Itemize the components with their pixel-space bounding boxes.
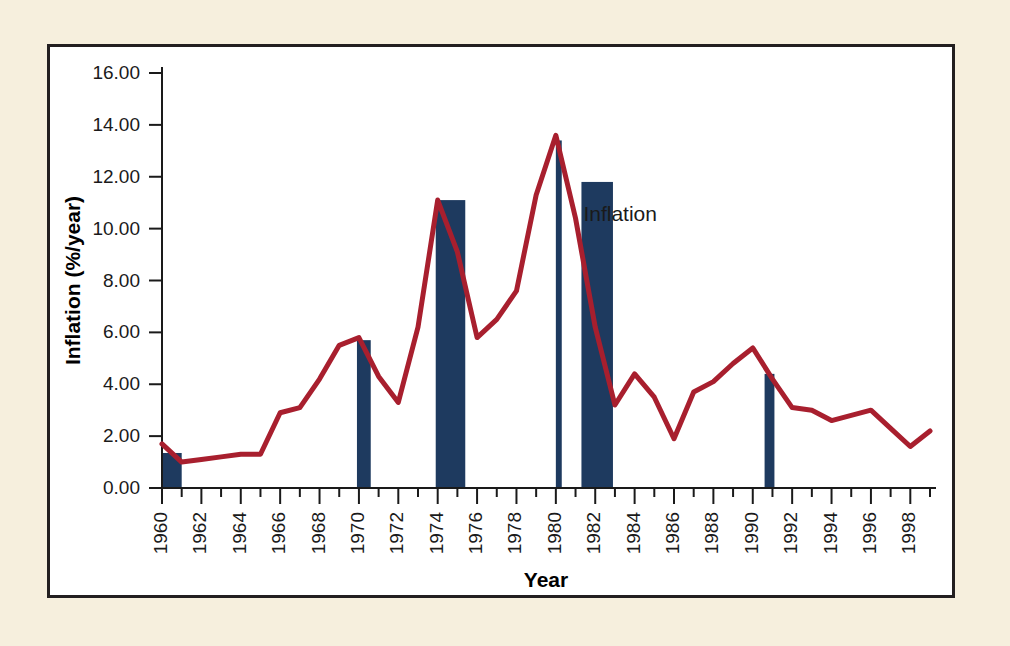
inflation-chart-svg: 0.002.004.006.008.0010.0012.0014.0016.00… <box>50 47 958 601</box>
chart-page: 0.002.004.006.008.0010.0012.0014.0016.00… <box>0 0 1010 646</box>
y-tick-label: 2.00 <box>103 425 140 446</box>
x-tick-label: 1996 <box>859 512 880 554</box>
y-tick-label: 16.00 <box>92 62 140 83</box>
x-axis-title: Year <box>524 568 568 591</box>
y-tick-label: 10.00 <box>92 218 140 239</box>
x-tick-label: 1966 <box>268 512 289 554</box>
recession-bar <box>436 200 466 488</box>
x-tick-label: 1968 <box>308 512 329 554</box>
x-tick-label: 1986 <box>662 512 683 554</box>
x-tick-label: 1980 <box>544 512 565 554</box>
y-tick-label: 4.00 <box>103 373 140 394</box>
inflation-series-label: Inflation <box>583 202 657 225</box>
x-tick-label: 1974 <box>426 512 447 555</box>
x-tick-label: 1990 <box>741 512 762 554</box>
x-tick-label: 1964 <box>229 512 250 555</box>
chart-panel: 0.002.004.006.008.0010.0012.0014.0016.00… <box>47 44 955 598</box>
y-tick-label: 8.00 <box>103 270 140 291</box>
x-tick-label: 1976 <box>465 512 486 554</box>
inflation-line <box>162 135 930 462</box>
x-tick-label: 1982 <box>583 512 604 554</box>
y-tick-label: 12.00 <box>92 166 140 187</box>
y-tick-label: 14.00 <box>92 114 140 135</box>
y-tick-label: 6.00 <box>103 321 140 342</box>
x-tick-label: 1978 <box>504 512 525 554</box>
x-tick-label: 1962 <box>189 512 210 554</box>
recession-bar <box>765 374 775 488</box>
x-tick-label: 1960 <box>150 512 171 554</box>
x-tick-label: 1972 <box>386 512 407 554</box>
x-tick-label: 1998 <box>898 512 919 554</box>
x-tick-label: 1988 <box>701 512 722 554</box>
y-tick-label: 0.00 <box>103 477 140 498</box>
recession-bar <box>556 140 562 488</box>
x-tick-label: 1984 <box>623 512 644 555</box>
x-tick-label: 1994 <box>820 512 841 555</box>
x-tick-label: 1992 <box>780 512 801 554</box>
x-tick-label: 1970 <box>347 512 368 554</box>
y-axis-title: Inflation (%/year) <box>61 196 84 365</box>
